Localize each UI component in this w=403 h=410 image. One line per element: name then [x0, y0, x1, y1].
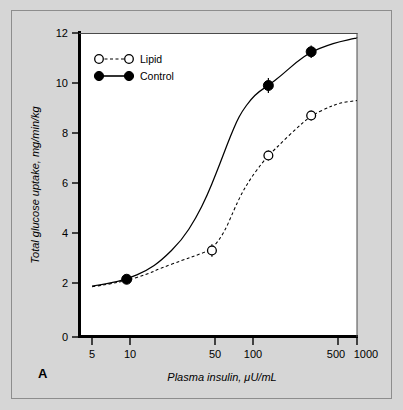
- data-point-filled-circle: [306, 47, 316, 57]
- y-axis-tick-labels: 12 10 8 6 4 2 0: [56, 27, 68, 343]
- x-tick-label-1000: 1000: [354, 348, 378, 360]
- x-axis-title: Plasma insulin, μU/mL: [167, 371, 276, 383]
- y-tick-label-2: 2: [62, 277, 68, 289]
- data-point-open-circle: [264, 151, 273, 160]
- y-tick-label-10: 10: [56, 77, 68, 89]
- glucose-uptake-chart: 12 10 8 6 4 2 0 5 10 50: [0, 0, 403, 410]
- y-tick-label-6: 6: [62, 177, 68, 189]
- x-tick-label-10: 10: [124, 348, 136, 360]
- x-axis-tick-labels: 5 10 50 100 500 1000: [89, 348, 378, 360]
- y-tick-label-4: 4: [62, 227, 68, 239]
- data-point-open-circle: [307, 111, 316, 120]
- legend-label-control: Control: [140, 70, 174, 82]
- data-point-filled-circle: [263, 81, 273, 91]
- x-tick-label-50: 50: [209, 348, 221, 360]
- plot-area-background: [79, 33, 357, 337]
- legend-marker-open-circle-right: [125, 55, 134, 64]
- y-axis-ticks: [72, 33, 79, 337]
- y-axis-title: Total glucose uptake, mg/min/kg: [29, 105, 41, 263]
- legend-label-lipid: Lipid: [140, 53, 162, 65]
- data-point-filled-circle: [122, 274, 132, 284]
- x-tick-label-5: 5: [89, 348, 95, 360]
- chart-figure: 12 10 8 6 4 2 0 5 10 50: [0, 0, 403, 410]
- x-axis-ticks: [92, 338, 357, 345]
- x-tick-label-100: 100: [244, 348, 262, 360]
- y-tick-label-12: 12: [56, 27, 68, 39]
- y-tick-label-8: 8: [62, 127, 68, 139]
- x-tick-label-500: 500: [327, 348, 345, 360]
- y-tick-label-0: 0: [62, 331, 68, 343]
- legend-marker-filled-circle-left: [94, 71, 103, 80]
- figure-page: 12 10 8 6 4 2 0 5 10 50: [0, 0, 403, 410]
- data-point-open-circle: [208, 246, 217, 255]
- panel-letter: A: [38, 366, 48, 381]
- legend-marker-filled-circle-right: [124, 71, 133, 80]
- legend-marker-open-circle-left: [95, 55, 104, 64]
